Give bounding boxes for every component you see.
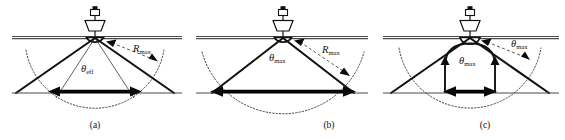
swath-extent-arrow (210, 86, 356, 96)
panel-caption-c: (c) (480, 120, 491, 131)
angle-label-c-inner: θmax (459, 55, 476, 67)
range-label-a: Rmax (132, 43, 151, 55)
ship-icon (85, 6, 105, 37)
angle-label-b: θmax (269, 52, 286, 64)
sonar-swath-figure: Rmax θeff (a) (0, 0, 565, 140)
panel-caption-a: (a) (90, 120, 101, 131)
ship-icon (273, 6, 293, 37)
panel-caption-b: (b) (323, 120, 334, 131)
panel-a: Rmax θeff (a) (0, 0, 190, 140)
panel-c: θmax θmax (c) (375, 0, 565, 140)
angle-label-c-outer: θmax (511, 38, 528, 50)
max-range-arc (26, 50, 164, 108)
ship-icon (460, 6, 480, 37)
max-range-arc (399, 48, 541, 108)
effective-angle-guide-right (95, 38, 134, 98)
panel-b: Rmax θmax (b) (188, 0, 378, 140)
beam-ray-left (212, 38, 283, 93)
beam-ray-right (470, 38, 549, 93)
range-label-b: Rmax (321, 44, 340, 56)
beam-ray-right (283, 38, 354, 93)
angle-label-a: θeff (81, 63, 94, 75)
swath-extent-arrow (443, 86, 497, 96)
